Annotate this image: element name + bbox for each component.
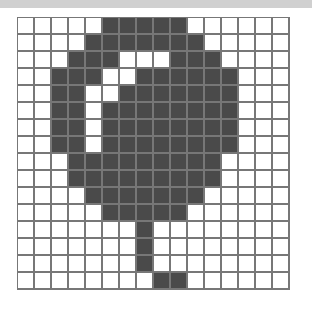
pixel-cell[interactable] [18,154,34,170]
pixel-cell[interactable] [86,103,102,119]
pixel-cell[interactable] [273,256,289,272]
pixel-cell[interactable] [86,137,102,153]
pixel-cell[interactable] [18,137,34,153]
pixel-cell[interactable] [120,120,136,136]
pixel-cell[interactable] [52,273,68,289]
pixel-cell[interactable] [188,18,204,34]
pixel-cell[interactable] [103,239,119,255]
pixel-cell[interactable] [273,188,289,204]
pixel-cell[interactable] [205,120,221,136]
pixel-cell[interactable] [256,103,272,119]
pixel-cell[interactable] [256,239,272,255]
pixel-cell[interactable] [69,103,85,119]
pixel-cell[interactable] [239,205,255,221]
pixel-cell[interactable] [120,86,136,102]
pixel-cell[interactable] [239,103,255,119]
pixel-cell[interactable] [120,256,136,272]
pixel-cell[interactable] [239,222,255,238]
pixel-cell[interactable] [103,18,119,34]
pixel-cell[interactable] [103,256,119,272]
pixel-cell[interactable] [205,171,221,187]
pixel-cell[interactable] [205,86,221,102]
pixel-cell[interactable] [69,239,85,255]
pixel-cell[interactable] [103,154,119,170]
pixel-cell[interactable] [120,18,136,34]
pixel-cell[interactable] [137,222,153,238]
pixel-grid[interactable] [17,17,290,290]
pixel-cell[interactable] [154,188,170,204]
pixel-cell[interactable] [69,171,85,187]
pixel-cell[interactable] [171,137,187,153]
pixel-cell[interactable] [205,103,221,119]
pixel-cell[interactable] [171,205,187,221]
pixel-cell[interactable] [222,222,238,238]
pixel-cell[interactable] [52,256,68,272]
pixel-cell[interactable] [137,35,153,51]
pixel-cell[interactable] [120,137,136,153]
pixel-cell[interactable] [137,52,153,68]
pixel-cell[interactable] [86,154,102,170]
pixel-cell[interactable] [18,256,34,272]
pixel-cell[interactable] [205,239,221,255]
pixel-cell[interactable] [256,86,272,102]
pixel-cell[interactable] [239,86,255,102]
pixel-cell[interactable] [52,103,68,119]
pixel-cell[interactable] [256,154,272,170]
pixel-cell[interactable] [86,239,102,255]
pixel-cell[interactable] [86,205,102,221]
pixel-cell[interactable] [154,103,170,119]
pixel-cell[interactable] [52,188,68,204]
pixel-cell[interactable] [205,52,221,68]
pixel-cell[interactable] [69,120,85,136]
pixel-cell[interactable] [256,222,272,238]
pixel-cell[interactable] [69,18,85,34]
pixel-cell[interactable] [52,52,68,68]
pixel-cell[interactable] [86,35,102,51]
pixel-cell[interactable] [137,120,153,136]
pixel-cell[interactable] [273,120,289,136]
pixel-cell[interactable] [35,69,51,85]
pixel-cell[interactable] [256,188,272,204]
pixel-cell[interactable] [188,239,204,255]
pixel-cell[interactable] [69,35,85,51]
pixel-cell[interactable] [120,239,136,255]
pixel-cell[interactable] [205,69,221,85]
pixel-cell[interactable] [222,188,238,204]
pixel-cell[interactable] [188,103,204,119]
pixel-cell[interactable] [239,120,255,136]
pixel-cell[interactable] [86,188,102,204]
pixel-cell[interactable] [222,205,238,221]
pixel-cell[interactable] [222,120,238,136]
pixel-cell[interactable] [171,52,187,68]
pixel-cell[interactable] [137,205,153,221]
pixel-cell[interactable] [120,35,136,51]
pixel-cell[interactable] [205,222,221,238]
pixel-cell[interactable] [171,273,187,289]
pixel-cell[interactable] [137,103,153,119]
pixel-cell[interactable] [273,205,289,221]
pixel-cell[interactable] [52,18,68,34]
pixel-cell[interactable] [188,188,204,204]
pixel-cell[interactable] [256,120,272,136]
pixel-cell[interactable] [154,52,170,68]
pixel-cell[interactable] [18,239,34,255]
pixel-cell[interactable] [103,103,119,119]
pixel-cell[interactable] [69,256,85,272]
pixel-cell[interactable] [69,69,85,85]
pixel-cell[interactable] [273,86,289,102]
pixel-cell[interactable] [120,52,136,68]
pixel-cell[interactable] [35,52,51,68]
pixel-cell[interactable] [256,137,272,153]
pixel-cell[interactable] [86,86,102,102]
pixel-cell[interactable] [137,137,153,153]
pixel-cell[interactable] [137,239,153,255]
pixel-cell[interactable] [86,256,102,272]
pixel-cell[interactable] [69,154,85,170]
pixel-cell[interactable] [18,18,34,34]
pixel-cell[interactable] [171,18,187,34]
pixel-cell[interactable] [256,171,272,187]
pixel-cell[interactable] [69,137,85,153]
pixel-cell[interactable] [273,273,289,289]
pixel-cell[interactable] [205,256,221,272]
pixel-cell[interactable] [171,35,187,51]
